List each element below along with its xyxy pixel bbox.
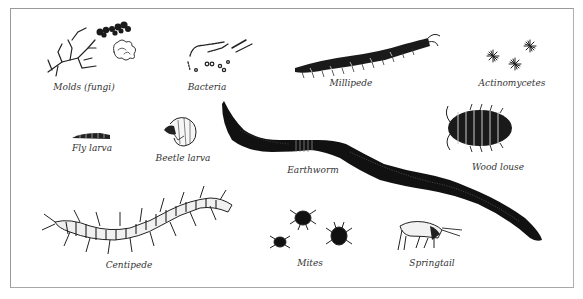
label-millipede: Millipede <box>330 78 373 88</box>
fly-larva-illustration <box>72 133 110 139</box>
label-mites: Mites <box>297 258 323 268</box>
millipede-illustration <box>295 34 440 78</box>
label-fly-larva: Fly larva <box>72 143 112 153</box>
molds-illustration <box>48 21 136 76</box>
label-molds: Molds (fungi) <box>53 82 114 92</box>
centipede-illustration <box>42 186 232 254</box>
label-centipede: Centipede <box>106 260 153 270</box>
actinomycetes-illustration <box>487 40 536 70</box>
bacteria-illustration <box>188 40 252 72</box>
mites-illustration <box>270 210 352 248</box>
springtail-illustration <box>398 222 462 251</box>
label-earthworm: Earthworm <box>287 165 339 175</box>
beetle-larva-illustration <box>164 118 196 146</box>
label-actinomycetes: Actinomycetes <box>479 78 546 88</box>
label-bacteria: Bacteria <box>188 82 227 92</box>
label-beetle-larva: Beetle larva <box>156 153 211 163</box>
label-springtail: Springtail <box>409 258 454 268</box>
label-wood-louse: Wood louse <box>472 162 524 172</box>
wood-louse-illustration <box>446 104 512 152</box>
